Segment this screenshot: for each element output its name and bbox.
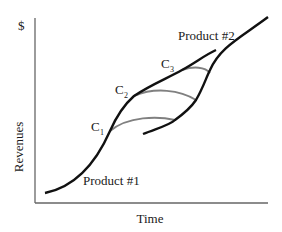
svg-text:2: 2	[124, 91, 128, 100]
product-1-label: Product #1	[83, 173, 140, 188]
svg-text:C: C	[115, 82, 124, 97]
svg-text:1: 1	[100, 128, 104, 137]
connector-c1-label: C 1	[91, 119, 104, 137]
svg-text:3: 3	[170, 65, 174, 74]
svg-text:C: C	[91, 119, 100, 134]
s-curve-diagram: $ Revenues Time Product #1 Product #2 C …	[0, 0, 282, 232]
y-axis-label: Revenues	[11, 122, 26, 173]
product-2-label: Product #2	[178, 28, 235, 43]
y-axis-unit-label: $	[18, 18, 25, 33]
x-axis-label: Time	[137, 211, 164, 226]
svg-text:C: C	[161, 56, 170, 71]
connector-c2-label: C 2	[115, 82, 128, 100]
connector-c2-arc	[134, 91, 196, 100]
connector-c3-label: C 3	[161, 56, 174, 74]
